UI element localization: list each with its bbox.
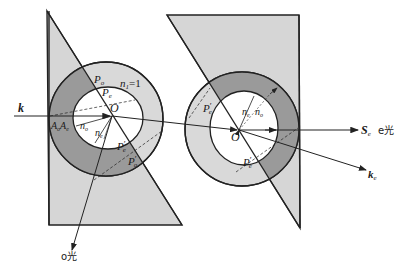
right-prism — [167, 15, 300, 228]
svg-text:O: O — [231, 130, 240, 144]
svg-text:n1=1: n1=1 — [120, 77, 141, 91]
svg-text:P′o: P′o — [127, 154, 138, 169]
svg-text:k: k — [18, 101, 24, 115]
svg-text:O: O — [110, 101, 119, 115]
svg-text:Se: Se — [361, 123, 371, 138]
svg-text:P′e: P′e — [242, 155, 252, 170]
svg-text:P′e: P′e — [116, 139, 126, 154]
birefringence-diagram: Po Pe n1=1 O AoAe no ne P′e P′o P′e ne n… — [0, 0, 402, 270]
svg-text:ke: ke — [368, 168, 377, 182]
left-prism — [47, 11, 182, 225]
svg-text:P′e: P′e — [202, 101, 212, 116]
svg-text:e光: e光 — [378, 124, 394, 136]
svg-text:o光: o光 — [61, 250, 77, 262]
